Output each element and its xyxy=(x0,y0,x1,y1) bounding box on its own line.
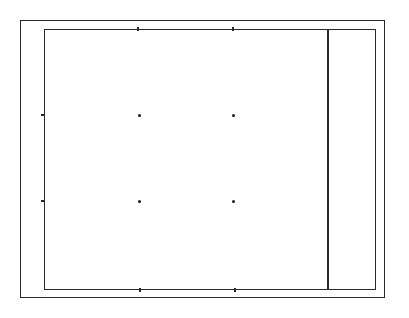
bottom-tick xyxy=(139,288,141,292)
data-point xyxy=(138,200,141,203)
bottom-tick xyxy=(234,288,236,292)
left-tick xyxy=(41,114,45,116)
top-tick xyxy=(232,27,234,31)
data-point xyxy=(232,114,235,117)
left-tick xyxy=(41,200,45,202)
data-point xyxy=(138,114,141,117)
panel-divider xyxy=(327,29,329,290)
top-tick xyxy=(137,27,139,31)
data-point xyxy=(232,200,235,203)
